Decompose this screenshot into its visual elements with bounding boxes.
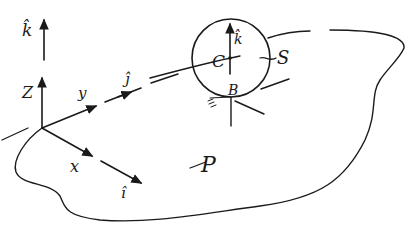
y-axis-extension (151, 74, 178, 83)
label-S: S (277, 47, 289, 68)
tangent-line-2 (235, 101, 264, 114)
diagram-canvas: k̂ Z y ĵ x î C k̂ B S P (0, 0, 417, 231)
plane-outline (15, 30, 404, 221)
label-k-hat-axis: k̂ (22, 19, 32, 40)
label-B: B (227, 82, 238, 98)
center-point-C (228, 56, 232, 60)
label-z: Z (21, 83, 34, 102)
ground-hatch (208, 97, 230, 107)
x-axis (42, 128, 92, 156)
label-P: P (200, 152, 217, 177)
label-C: C (212, 51, 225, 71)
label-i-hat: î (121, 184, 127, 202)
i-hat-vector (101, 161, 141, 183)
y-axis (42, 106, 96, 128)
label-j-hat: ĵ (122, 70, 131, 88)
label-k-hat-sphere: k̂ (234, 29, 242, 47)
sphere-label-leader (260, 58, 276, 60)
tangent-line-1 (261, 79, 289, 89)
label-x: x (70, 157, 79, 176)
label-y: y (77, 84, 87, 102)
